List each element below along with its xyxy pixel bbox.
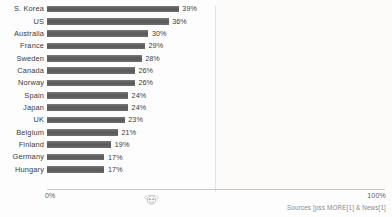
bar-value-label: 28%: [145, 54, 160, 63]
bar-row: Belgium21%: [0, 126, 392, 138]
bar-category-label: UK: [0, 116, 47, 124]
bar-value-label: 29%: [149, 41, 164, 50]
bar-value-label: 24%: [132, 91, 147, 100]
bar-track: 26%: [47, 77, 392, 89]
bar-category-label: Sweden: [0, 55, 47, 63]
bar-value-label: 30%: [152, 29, 167, 38]
bar: [47, 129, 118, 136]
bar-category-label: Australia: [0, 30, 47, 38]
bar-category-label: Spain: [0, 92, 47, 100]
bar-value-label: 26%: [138, 66, 153, 75]
bar-row: Sweden28%: [0, 52, 392, 64]
bar-category-label: France: [0, 42, 47, 50]
circular-logo-watermark-icon: [143, 192, 160, 207]
bar-value-label: 36%: [172, 17, 187, 26]
bar-value-label: 39%: [182, 4, 197, 13]
bar-row: US36%: [0, 15, 392, 27]
bar-category-label: Japan: [0, 104, 47, 112]
bar-row: France29%: [0, 40, 392, 52]
bar-row: S. Korea39%: [0, 3, 392, 15]
bar-value-label: 21%: [121, 128, 136, 137]
bar-row: UK23%: [0, 114, 392, 126]
bar-row: Hungary17%: [0, 163, 392, 175]
bar-row: Australia30%: [0, 28, 392, 40]
plot-area: S. Korea39%US36%Australia30%France29%Swe…: [0, 3, 392, 189]
bar-row: Finland19%: [0, 139, 392, 151]
bar-value-label: 17%: [108, 165, 123, 174]
bar: [47, 55, 142, 62]
bar: [47, 6, 179, 13]
bar-value-label: 17%: [108, 153, 123, 162]
bar-row: Spain24%: [0, 89, 392, 101]
bar-category-label: Hungary: [0, 166, 47, 174]
bar-category-label: Norway: [0, 79, 47, 87]
bar-track: 39%: [47, 3, 392, 15]
bar-row: Japan24%: [0, 102, 392, 114]
bar-category-label: S. Korea: [0, 5, 47, 13]
x-axis-tick-min: 0%: [45, 191, 56, 200]
bar: [47, 67, 135, 74]
bar-chart: S. Korea39%US36%Australia30%France29%Swe…: [0, 0, 392, 217]
bar-category-label: Belgium: [0, 129, 47, 137]
bar-row: Canada26%: [0, 65, 392, 77]
bar: [47, 43, 145, 50]
bar: [47, 141, 111, 148]
bar: [47, 80, 135, 87]
bar-value-label: 24%: [132, 103, 147, 112]
bar-row: Norway26%: [0, 77, 392, 89]
bar-track: 26%: [47, 65, 392, 77]
bar: [47, 92, 128, 99]
bar: [47, 154, 104, 161]
bar: [47, 104, 128, 111]
bar-row-list: S. Korea39%US36%Australia30%France29%Swe…: [0, 3, 392, 176]
bar-row: Germany17%: [0, 151, 392, 163]
bar-track: 24%: [47, 89, 392, 101]
bar-track: 17%: [47, 163, 392, 175]
bar-category-label: US: [0, 18, 47, 26]
bar: [47, 117, 125, 124]
bar: [47, 166, 104, 173]
bar-track: 23%: [47, 114, 392, 126]
bar-track: 29%: [47, 40, 392, 52]
bar-track: 17%: [47, 151, 392, 163]
bar-track: 21%: [47, 126, 392, 138]
bar-category-label: Canada: [0, 67, 47, 75]
x-axis-line: [47, 189, 385, 190]
bar: [47, 30, 148, 37]
bar-value-label: 23%: [128, 115, 143, 124]
source-attribution: Sources [pss MORE[1] & News[1]: [287, 204, 386, 212]
bar-track: 19%: [47, 139, 392, 151]
bar-track: 30%: [47, 28, 392, 40]
bar-track: 36%: [47, 15, 392, 27]
bar-track: 28%: [47, 52, 392, 64]
bar-category-label: Finland: [0, 141, 47, 149]
bar-category-label: Germany: [0, 153, 47, 161]
bar-value-label: 26%: [138, 78, 153, 87]
bar-value-label: 19%: [115, 140, 130, 149]
bar-track: 24%: [47, 102, 392, 114]
x-axis-tick-max: 100%: [367, 191, 386, 200]
bar: [47, 18, 169, 25]
